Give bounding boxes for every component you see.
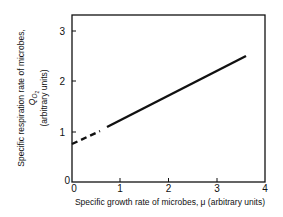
- dashed-extrapolation-line: [72, 131, 100, 144]
- y-tick-2: 2: [59, 76, 65, 87]
- x-axis-title: Specific growth rate of microbes, μ (arb…: [75, 197, 265, 207]
- y-axis-title-line2: QO2: [27, 91, 40, 106]
- y-tick-1: 1: [59, 127, 65, 138]
- y-tick-3: 3: [59, 26, 65, 37]
- solid-data-line: [107, 56, 246, 127]
- x-tick-3: 3: [214, 183, 220, 194]
- y-axis-title-line3: (arbitrary units): [39, 69, 49, 126]
- chart: 3 2 1 0 0 1 2 3 4 Specific growth rate o…: [0, 0, 283, 217]
- y-axis-title: Specific respiration rate of microbes, Q…: [16, 29, 49, 166]
- x-tick-4: 4: [262, 183, 268, 194]
- y-tick-0: 0: [64, 175, 70, 186]
- x-tick-0: 0: [71, 183, 77, 194]
- plot-frame: [72, 15, 265, 182]
- y-axis-title-line1: Specific respiration rate of microbes,: [16, 29, 26, 166]
- x-tick-1: 1: [117, 183, 123, 194]
- x-tick-2: 2: [166, 183, 172, 194]
